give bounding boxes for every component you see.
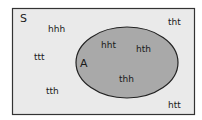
element-hth: hth [136,44,151,54]
set-a-ellipse [76,27,178,98]
element-hhh: hhh [48,24,65,34]
element-htt: htt [168,100,181,110]
venn-diagram: S A hhh ttt tth tht htt hht hth thh [0,0,202,120]
element-ttt: ttt [34,52,45,62]
element-thh: thh [119,74,134,84]
element-tht: tht [168,17,181,27]
set-a-label: A [80,57,88,70]
element-tth: tth [46,86,59,96]
universe-label: S [20,12,27,25]
element-hht: hht [101,40,116,50]
